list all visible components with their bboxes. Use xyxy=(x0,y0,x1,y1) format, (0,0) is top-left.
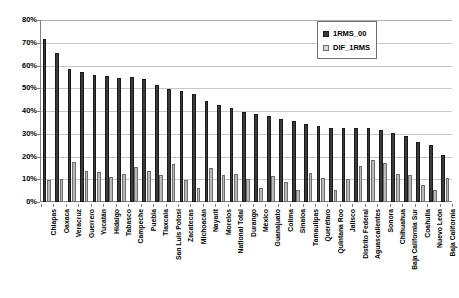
bar-group xyxy=(205,20,213,202)
bar-group xyxy=(279,20,287,202)
y-tick-mark xyxy=(36,43,40,44)
bar-group xyxy=(142,20,150,202)
bar-dif-1rms xyxy=(383,163,387,202)
bar-1rms-00 xyxy=(317,126,321,202)
bar-group xyxy=(155,20,163,202)
bar-group xyxy=(391,20,399,202)
bar-dif-1rms xyxy=(234,174,238,202)
bar-1rms-00 xyxy=(217,105,221,202)
legend-swatch-icon xyxy=(323,45,329,51)
x-tick-label: Hidalgo xyxy=(113,209,121,234)
bar-group xyxy=(68,20,76,202)
x-tick-mark xyxy=(166,204,167,207)
bar-group xyxy=(105,20,113,202)
x-tick-label: Baja California xyxy=(449,209,457,257)
bar-1rms-00 xyxy=(367,128,371,202)
x-tick-mark xyxy=(377,204,378,207)
x-tick-label: Nuevo León xyxy=(436,209,444,248)
bar-1rms-00 xyxy=(55,53,59,202)
x-tick-label: Tabasco xyxy=(125,209,133,236)
legend-item-dif-1rms: DIF_1RMS xyxy=(323,43,370,52)
y-tick-label: 40% xyxy=(3,107,37,115)
bar-dif-1rms xyxy=(122,174,126,202)
bar-dif-1rms xyxy=(209,168,213,202)
x-tick-mark xyxy=(78,204,79,207)
x-tick-label: Yucatán xyxy=(100,209,108,235)
x-tick-mark xyxy=(340,204,341,207)
y-tick-label: 80% xyxy=(3,16,37,24)
x-tick-mark xyxy=(278,204,279,207)
x-tick-label: Quintana Roo xyxy=(337,209,345,254)
x-tick-label: San Luis Potosí xyxy=(175,209,183,260)
legend-swatch-icon xyxy=(323,31,329,37)
x-tick-label: Michoacán xyxy=(200,209,208,244)
x-tick-label: Oaxaca xyxy=(63,209,71,233)
bar-1rms-00 xyxy=(267,116,271,202)
bar-group xyxy=(404,20,412,202)
bar-group xyxy=(242,20,250,202)
bar-dif-1rms xyxy=(147,171,151,202)
y-tick-label: 10% xyxy=(3,175,37,183)
chart-legend: 1RMS_00 DIF_1RMS xyxy=(317,21,377,59)
bar-dif-1rms xyxy=(296,190,300,203)
y-tick-label: 50% xyxy=(3,84,37,92)
x-tick-label: Guanajuato xyxy=(274,209,282,246)
bar-1rms-00 xyxy=(329,128,333,202)
x-tick-mark xyxy=(240,204,241,207)
x-tick-mark xyxy=(303,204,304,207)
x-tick-mark xyxy=(315,204,316,207)
x-tick-mark xyxy=(103,204,104,207)
bar-1rms-00 xyxy=(43,39,47,202)
x-tick-label: Veracruz xyxy=(75,209,83,237)
y-tick-label: 70% xyxy=(3,39,37,47)
y-tick-label: 0% xyxy=(3,198,37,206)
y-tick-mark xyxy=(36,20,40,21)
y-tick-label: 60% xyxy=(3,62,37,70)
y-tick-mark xyxy=(36,157,40,158)
bar-1rms-00 xyxy=(416,142,420,202)
bar-group xyxy=(379,20,387,202)
x-axis: ChiapasOaxacaVeracruzGuerreroYucatánHida… xyxy=(41,204,452,298)
bar-1rms-00 xyxy=(80,72,84,202)
x-tick-mark xyxy=(41,204,42,207)
bar-dif-1rms xyxy=(172,164,176,202)
bar-group xyxy=(292,20,300,202)
bar-dif-1rms xyxy=(408,175,412,202)
bar-group xyxy=(117,20,125,202)
x-tick-label: Chiapas xyxy=(50,209,58,235)
x-tick-mark xyxy=(141,204,142,207)
x-tick-label: Zacatecas xyxy=(187,209,195,242)
bar-dif-1rms xyxy=(47,180,51,202)
bar-1rms-00 xyxy=(155,85,159,202)
bar-1rms-00 xyxy=(105,76,109,202)
y-tick-mark xyxy=(36,202,40,203)
x-tick-label: National Total xyxy=(237,209,245,253)
bar-dif-1rms xyxy=(60,179,64,202)
bar-1rms-00 xyxy=(192,94,196,202)
legend-item-1rms-00: 1RMS_00 xyxy=(323,29,370,38)
bar-dif-1rms xyxy=(446,178,450,202)
bar-dif-1rms xyxy=(246,179,250,202)
x-tick-label: Campeche xyxy=(137,209,145,243)
bar-group xyxy=(93,20,101,202)
y-tick-mark xyxy=(36,66,40,67)
y-tick-mark xyxy=(36,88,40,89)
legend-label: 1RMS_00 xyxy=(333,29,366,38)
x-tick-mark xyxy=(452,204,453,207)
y-tick-mark xyxy=(36,179,40,180)
x-tick-mark xyxy=(116,204,117,207)
bar-1rms-00 xyxy=(342,128,346,202)
x-tick-label: Morelos xyxy=(225,209,233,235)
x-tick-mark xyxy=(153,204,154,207)
bar-group xyxy=(180,20,188,202)
x-tick-label: Colima xyxy=(287,209,295,232)
bar-1rms-00 xyxy=(242,112,246,202)
bar-1rms-00 xyxy=(279,119,283,202)
x-tick-label: Guerrero xyxy=(88,209,96,238)
y-tick-mark xyxy=(36,134,40,135)
bar-1rms-00 xyxy=(292,121,296,202)
bar-1rms-00 xyxy=(429,145,433,202)
bar-group xyxy=(429,20,437,202)
bar-chart: 0%10%20%30%40%50%60%70%80% ChiapasOaxaca… xyxy=(0,0,459,298)
bar-dif-1rms xyxy=(346,179,350,202)
